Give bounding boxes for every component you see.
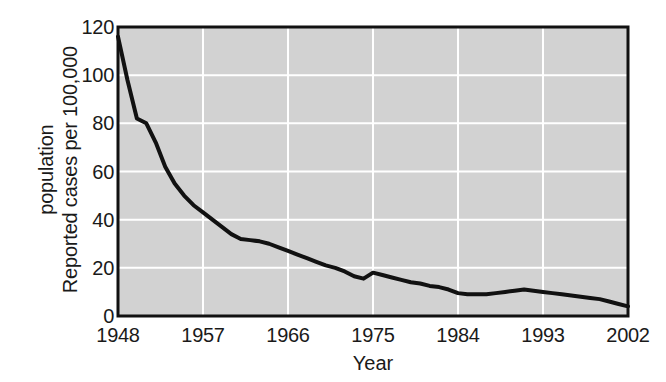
chart-figure: Reported cases per 100,000 population 02… [0,0,666,382]
x-axis-label: Year [118,352,628,375]
chart-plot-area [0,0,666,382]
